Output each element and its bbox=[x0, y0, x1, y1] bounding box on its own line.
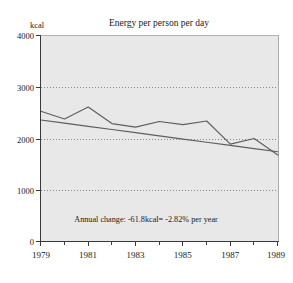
chart-container: Energy per person per day kcal 0 1000 20… bbox=[0, 0, 293, 283]
y-axis-tick-label-3000: 3000 bbox=[17, 83, 34, 93]
plot-area-background bbox=[41, 36, 279, 242]
x-axis-tick-label-1983: 1983 bbox=[126, 250, 145, 260]
chart-title: Energy per person per day bbox=[109, 18, 209, 28]
x-axis-tick-label-1985: 1985 bbox=[174, 250, 193, 260]
energy-per-person-line-chart: Energy per person per day kcal 0 1000 20… bbox=[0, 0, 293, 283]
y-axis-tick-label-0: 0 bbox=[30, 237, 34, 247]
y-axis-tick-label-2000: 2000 bbox=[17, 135, 34, 145]
x-axis-tick-label-1981: 1981 bbox=[79, 250, 97, 260]
x-axis-tick-label-1987: 1987 bbox=[221, 250, 240, 260]
y-axis-tick-label-1000: 1000 bbox=[17, 186, 34, 196]
x-axis-tick-label-1979: 1979 bbox=[32, 250, 51, 260]
y-axis-tick-label-4000: 4000 bbox=[17, 31, 34, 41]
y-axis-unit-label: kcal bbox=[30, 20, 45, 30]
annual-change-annotation: Annual change: -61.8kcal= -2.82% per yea… bbox=[74, 215, 218, 224]
x-axis-tick-label-1989: 1989 bbox=[267, 250, 286, 260]
